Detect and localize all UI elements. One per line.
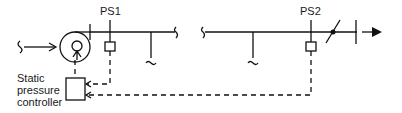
inlet-break-icon [18, 41, 22, 53]
branch-1-wave-icon [146, 62, 156, 65]
damper-pivot-icon [331, 30, 336, 35]
controller-label-line1: Static [17, 72, 45, 84]
ps2-label: PS2 [300, 5, 321, 17]
controller-label-line2: pressure [17, 84, 60, 96]
outlet-arrow-icon [372, 27, 382, 37]
controller-label-line3: controller [17, 96, 62, 108]
ps1-label: PS1 [100, 5, 121, 17]
controller-box-icon [66, 78, 85, 100]
duct-break-2-icon [202, 27, 205, 38]
fan-actuator-icon [73, 51, 81, 60]
ps2-sensor-icon [306, 42, 316, 51]
ps2-signal-line [87, 51, 311, 95]
branch-2-wave-icon [248, 62, 258, 65]
fan-housing-icon [60, 32, 90, 62]
ps1-signal-line [87, 51, 110, 84]
ps1-sensor-icon [105, 42, 115, 51]
fan-wheel-icon [72, 41, 82, 51]
